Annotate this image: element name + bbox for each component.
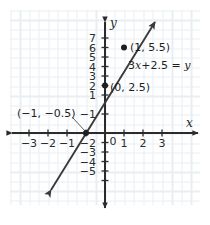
x-axis-label: x	[186, 117, 193, 129]
x-tick-label-neg2: −2	[38, 138, 58, 149]
point-label-0-2point5: (0, 2.5)	[110, 82, 150, 93]
equation-variable-y: y	[184, 59, 190, 72]
x-tick-label-3: 3	[153, 138, 171, 149]
y-tick-label-neg5: −5	[78, 166, 96, 177]
point-label-1-5point5: (1, 5.5)	[130, 42, 170, 53]
y-tick-label-neg1: −1	[78, 109, 96, 120]
coordinate-plane-figure: 7 6 5 4 3 2 1 −1 −2 −3 −4 −5 −3 −2 −1 0 …	[0, 0, 210, 225]
x-tick-label-1: 1	[115, 138, 133, 149]
y-tick-label-1: 1	[82, 90, 96, 101]
equation-label: 3x+2.5 = y	[128, 60, 190, 71]
data-point-0-2point5	[102, 83, 108, 89]
x-tick-label-2: 2	[134, 138, 152, 149]
x-tick-label-neg1: −1	[57, 138, 77, 149]
equation-operator: +2.5 =	[141, 59, 184, 72]
data-point-1-5point5	[121, 45, 127, 51]
data-point-neg1-neg0point5	[83, 130, 89, 136]
equation-coefficient: 3	[128, 59, 135, 72]
point-label-neg1-neg0point5: (−1, −0.5)	[17, 108, 76, 119]
y-axis	[102, 22, 109, 208]
y-axis-label: y	[110, 17, 117, 29]
x-tick-label-neg3: −3	[19, 138, 39, 149]
